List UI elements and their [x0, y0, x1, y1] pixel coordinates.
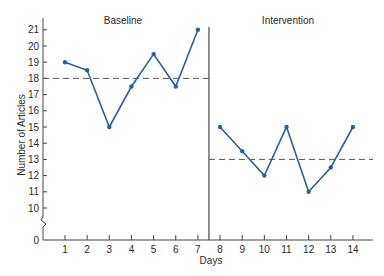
- data-point: [129, 84, 133, 88]
- data-point: [151, 52, 155, 56]
- data-point: [284, 125, 288, 129]
- y-tick-label: 13: [28, 154, 40, 165]
- x-tick-label: 8: [217, 244, 223, 255]
- x-tick-label: 9: [239, 244, 245, 255]
- y-tick-label: 15: [28, 122, 40, 133]
- x-tick-label: 3: [107, 244, 113, 255]
- x-tick-label: 14: [347, 244, 359, 255]
- x-axis-title: Days: [200, 255, 223, 266]
- data-point: [218, 125, 222, 129]
- x-tick-label: 1: [62, 244, 68, 255]
- data-point: [262, 173, 266, 177]
- y-axis-ticks: 0101112131415161718192021: [28, 24, 47, 245]
- y-axis-title: Number of Articles: [16, 94, 27, 176]
- data-point: [85, 68, 89, 72]
- x-tick-label: 7: [195, 244, 201, 255]
- y-tick-label: 16: [28, 105, 40, 116]
- x-tick-label: 2: [84, 244, 90, 255]
- y-tick-label: 14: [28, 138, 40, 149]
- data-point: [196, 28, 200, 32]
- data-point: [329, 165, 333, 169]
- x-tick-label: 12: [303, 244, 315, 255]
- y-tick-label: 21: [28, 24, 40, 35]
- x-tick-label: 6: [173, 244, 179, 255]
- axis-break-icon: [41, 217, 46, 227]
- x-axis-ticks: 1234567891011121314: [62, 235, 359, 255]
- phase-label-baseline: Baseline: [104, 15, 143, 26]
- phase-label-intervention: Intervention: [262, 15, 314, 26]
- y-tick-label: 19: [28, 57, 40, 68]
- x-tick-label: 10: [259, 244, 271, 255]
- single-case-design-chart: 0101112131415161718192021 12345678910111…: [0, 0, 384, 276]
- y-tick-label: 18: [28, 73, 40, 84]
- x-tick-label: 5: [151, 244, 157, 255]
- data-point: [306, 190, 310, 194]
- x-tick-label: 4: [129, 244, 135, 255]
- y-tick-label: 11: [29, 186, 40, 197]
- x-tick-label: 11: [281, 244, 292, 255]
- y-tick-label: 20: [28, 41, 40, 52]
- data-point: [107, 125, 111, 129]
- y-tick-label: 10: [28, 203, 40, 214]
- data-point: [63, 60, 67, 64]
- phase-mean-lines: [43, 78, 373, 159]
- data-point: [351, 125, 355, 129]
- y-tick-label: 17: [28, 89, 40, 100]
- y-tick-label: 0: [33, 235, 39, 246]
- y-tick-label: 12: [28, 170, 40, 181]
- data-point: [174, 84, 178, 88]
- chart-canvas: 0101112131415161718192021 12345678910111…: [0, 0, 384, 276]
- axes: [41, 18, 373, 240]
- x-tick-label: 13: [325, 244, 337, 255]
- data-point: [240, 149, 244, 153]
